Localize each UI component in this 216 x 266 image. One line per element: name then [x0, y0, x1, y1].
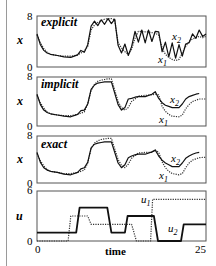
panel3-ylabel: x [17, 152, 23, 167]
panel2-ytick-top: 8 [27, 70, 33, 82]
x2-sub: 2 [177, 36, 181, 45]
panel3-x1-label: x1 [159, 169, 168, 184]
x1-sub: 1 [163, 59, 167, 68]
panel1-x1-label: x1 [158, 53, 167, 68]
xtick-end: 25 [195, 243, 206, 255]
u2-sub: 2 [174, 228, 178, 237]
x2-sub: 2 [175, 99, 179, 108]
u1-sub: 1 [147, 199, 151, 208]
xtick-start: 0 [35, 243, 41, 255]
panel4-ytick-bottom: 0 [27, 235, 33, 247]
panel2-ylabel: x [17, 94, 23, 109]
panel1-title: explicit [41, 15, 77, 30]
panel4-ylabel: u [16, 209, 23, 224]
x2-sub: 2 [176, 158, 180, 167]
panel3-ytick-top: 8 [27, 129, 33, 141]
panel2-x2-label: x2 [170, 93, 179, 108]
panel1-ytick-top: 8 [27, 10, 33, 22]
x1-sub: 1 [164, 119, 168, 128]
panel3-title: exact [41, 137, 67, 152]
panel4-u1-label: u1 [141, 193, 151, 208]
panel4-ytick-top: 6 [27, 184, 33, 196]
panel2-x1-label: x1 [159, 113, 168, 128]
panel1-ylabel: x [17, 33, 23, 48]
panel1-x2-label: x2 [172, 30, 181, 45]
xlabel-time: time [105, 245, 126, 257]
panel2-title: implicit [41, 77, 78, 92]
x1-sub: 1 [164, 175, 168, 184]
panel4-u2-label: u2 [168, 222, 178, 237]
panel3-x2-label: x2 [171, 152, 180, 167]
